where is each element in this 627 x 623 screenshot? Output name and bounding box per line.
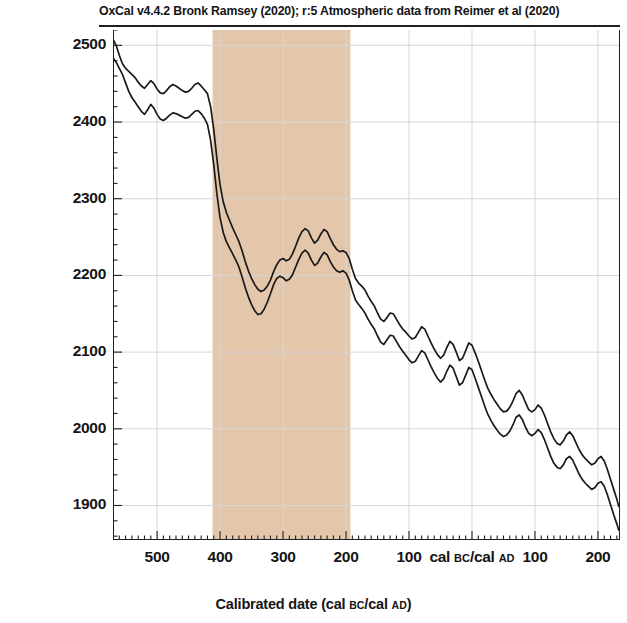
title-divider xyxy=(99,25,620,27)
axis-tick-marks xyxy=(113,30,617,540)
y-tick-label: 2000 xyxy=(73,419,106,437)
x-tick-label: 400 xyxy=(208,548,233,566)
y-tick-label: 2400 xyxy=(73,112,106,130)
plot-area xyxy=(113,30,620,540)
x-tick-label: 500 xyxy=(145,548,170,566)
x-axis-label-suffix: ) xyxy=(407,596,412,612)
x-tick-label: 200 xyxy=(334,548,359,566)
chart-title: OxCal v4.4.2 Bronk Ramsey (2020); r:5 At… xyxy=(99,4,619,18)
x-tick-label: 200 xyxy=(585,548,610,566)
era-mid: /cal xyxy=(470,548,499,565)
x-tick-label: 100 xyxy=(397,548,422,566)
x-axis-label: Calibrated date (cal BC/cal AD) xyxy=(0,596,627,612)
era-ad: AD xyxy=(499,552,515,564)
radiocarbon-calibration-figure: OxCal v4.4.2 Bronk Ramsey (2020); r:5 At… xyxy=(0,0,627,623)
y-tick-label: 1900 xyxy=(73,495,106,513)
era-prefix: cal xyxy=(429,548,454,565)
grid-lines xyxy=(113,30,620,540)
x-axis-label-bc: BC xyxy=(349,599,364,611)
x-tick-label: 100 xyxy=(522,548,547,566)
calibration-curve-lower xyxy=(113,58,619,530)
y-tick-label: 2500 xyxy=(73,35,106,53)
y-tick-label: 2300 xyxy=(73,189,106,207)
calibration-curve-plot xyxy=(113,30,620,540)
y-tick-label: 2200 xyxy=(73,265,106,283)
x-axis-label-prefix: Calibrated date (cal xyxy=(216,596,350,612)
highlight-band xyxy=(213,30,351,540)
x-tick-label: 300 xyxy=(271,548,296,566)
x-axis-label-mid: /cal xyxy=(364,596,391,612)
x-axis-label-ad: AD xyxy=(392,599,407,611)
x-tick-label-era-origin: cal BC/cal AD xyxy=(429,548,514,566)
era-bc: BC xyxy=(454,552,470,564)
y-tick-label: 2100 xyxy=(73,342,106,360)
